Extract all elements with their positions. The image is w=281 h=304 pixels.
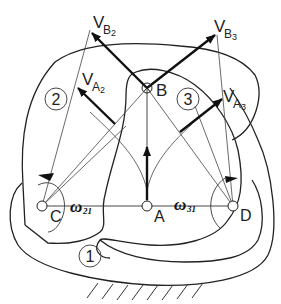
label-A: A (154, 208, 165, 225)
ground-hatch (87, 283, 203, 300)
joint-A (142, 201, 152, 211)
label-VA2: V A 2 (82, 70, 105, 95)
label-C: C (50, 208, 62, 225)
svg-text:31: 31 (186, 204, 196, 214)
label-B: B (156, 81, 167, 100)
link-3-label: 3 (184, 91, 193, 108)
link-2-label: 2 (52, 91, 61, 108)
label-VA3: V A 3 (223, 87, 246, 112)
link-3-lower-edge (97, 220, 228, 258)
joint-C (37, 201, 47, 211)
svg-text:ω: ω (174, 195, 186, 214)
mechanism-diagram: 2 3 1 B C A D V B 2 V B 3 V A 2 V A 3 ω … (0, 0, 281, 304)
svg-text:A: A (233, 97, 241, 111)
svg-text:A: A (92, 80, 100, 94)
link-1-label: 1 (86, 248, 95, 265)
velocity-arrows (78, 33, 222, 200)
link-1-body (10, 88, 274, 285)
label-D: D (240, 207, 252, 224)
link-2-lower-edge (25, 72, 136, 243)
svg-text:3: 3 (241, 102, 246, 112)
label-VB2: V B 2 (93, 13, 116, 38)
svg-text:B: B (103, 23, 111, 37)
svg-text:2: 2 (100, 85, 105, 95)
arrow-VB2 (92, 33, 147, 88)
omega21-arrow-icon (38, 173, 54, 181)
omega31-arrow-icon (225, 176, 238, 183)
svg-text:2: 2 (111, 28, 116, 38)
label-omega31: ω 31 (174, 195, 196, 214)
construction-lines (42, 30, 233, 206)
svg-text:ω: ω (70, 197, 82, 216)
svg-text:3: 3 (232, 32, 237, 42)
label-omega21: ω 21 (70, 197, 92, 216)
svg-text:B: B (224, 27, 232, 41)
svg-text:21: 21 (82, 206, 92, 216)
joint-D (228, 201, 238, 211)
link-1-inner-edge (100, 180, 262, 262)
